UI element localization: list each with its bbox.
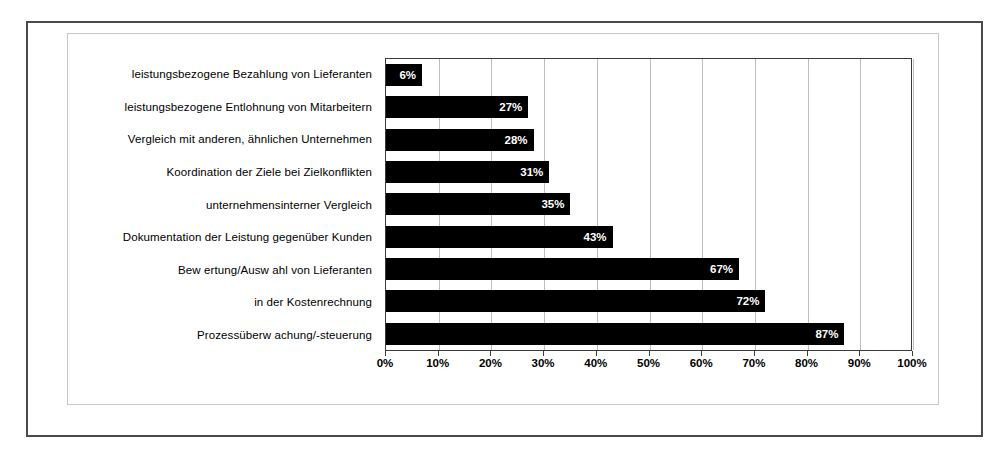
x-axis-tick bbox=[701, 351, 702, 356]
bar-value-label: 31% bbox=[520, 166, 543, 178]
plot-area: 6%27%28%31%35%43%67%72%87% bbox=[385, 58, 912, 351]
bar-value-label: 43% bbox=[584, 231, 607, 243]
x-axis-tick-label: 30% bbox=[532, 357, 555, 369]
category-label: Vergleich mit anderen, ähnlichen Unterne… bbox=[78, 123, 381, 156]
bar-value-label: 87% bbox=[815, 328, 838, 340]
category-axis-labels: leistungsbezogene Bezahlung von Lieferan… bbox=[78, 58, 381, 351]
x-axis-tick-label: 100% bbox=[897, 357, 926, 369]
bar: 43% bbox=[386, 226, 613, 248]
bar-row: 72% bbox=[386, 285, 911, 317]
bar: 87% bbox=[386, 323, 844, 345]
x-axis-tick bbox=[596, 351, 597, 356]
category-label: leistungsbezogene Entlohnung von Mitarbe… bbox=[78, 91, 381, 124]
x-axis-tick bbox=[438, 351, 439, 356]
x-axis-tick bbox=[490, 351, 491, 356]
x-axis-tick-label: 0% bbox=[377, 357, 394, 369]
bar: 31% bbox=[386, 161, 549, 183]
x-axis-tick bbox=[754, 351, 755, 356]
bar: 28% bbox=[386, 129, 534, 151]
x-axis-ticks bbox=[385, 351, 912, 356]
bar-row: 31% bbox=[386, 156, 911, 188]
bar-row: 27% bbox=[386, 91, 911, 123]
bar-value-label: 67% bbox=[710, 263, 733, 275]
gridline bbox=[913, 59, 914, 350]
bar-row: 35% bbox=[386, 188, 911, 220]
category-label: Bew ertung/Ausw ahl von Lieferanten bbox=[78, 253, 381, 286]
bar-value-label: 35% bbox=[541, 198, 564, 210]
x-axis-tick-label: 10% bbox=[426, 357, 449, 369]
x-axis-tick-label: 50% bbox=[637, 357, 660, 369]
page-root: leistungsbezogene Bezahlung von Lieferan… bbox=[0, 0, 1006, 457]
category-label: in der Kostenrechnung bbox=[78, 286, 381, 319]
category-label: Dokumentation der Leistung gegenüber Kun… bbox=[78, 221, 381, 254]
bar-series: 6%27%28%31%35%43%67%72%87% bbox=[386, 59, 911, 350]
bar-row: 43% bbox=[386, 221, 911, 253]
x-axis-tick bbox=[912, 351, 913, 356]
bar-row: 67% bbox=[386, 253, 911, 285]
bar: 67% bbox=[386, 258, 739, 280]
x-axis-tick-label: 90% bbox=[848, 357, 871, 369]
bar-row: 87% bbox=[386, 318, 911, 350]
x-axis-tick bbox=[859, 351, 860, 356]
bar-row: 28% bbox=[386, 124, 911, 156]
bar: 27% bbox=[386, 96, 528, 118]
category-label: unternehmensinterner Vergleich bbox=[78, 188, 381, 221]
x-axis-tick-label: 80% bbox=[795, 357, 818, 369]
x-axis-tick bbox=[543, 351, 544, 356]
category-label: Prozessüberw achung/-steuerung bbox=[78, 319, 381, 352]
bar: 35% bbox=[386, 193, 570, 215]
x-axis-tick-label: 60% bbox=[690, 357, 713, 369]
bar: 72% bbox=[386, 290, 765, 312]
bar: 6% bbox=[386, 64, 422, 86]
bar-chart: leistungsbezogene Bezahlung von Lieferan… bbox=[78, 46, 928, 394]
bar-value-label: 28% bbox=[505, 134, 528, 146]
category-label: Koordination der Ziele bei Zielkonflikte… bbox=[78, 156, 381, 189]
bar-row: 6% bbox=[386, 59, 911, 91]
bar-value-label: 6% bbox=[399, 69, 416, 81]
x-axis-tick bbox=[385, 351, 386, 356]
category-label: leistungsbezogene Bezahlung von Lieferan… bbox=[78, 58, 381, 91]
x-axis-tick bbox=[807, 351, 808, 356]
bar-value-label: 27% bbox=[499, 101, 522, 113]
bar-value-label: 72% bbox=[736, 295, 759, 307]
x-axis-tick-label: 20% bbox=[479, 357, 502, 369]
plot-inner: 6%27%28%31%35%43%67%72%87% bbox=[386, 59, 911, 350]
x-axis-tick-label: 40% bbox=[584, 357, 607, 369]
x-axis-tick bbox=[649, 351, 650, 356]
x-axis-tick-label: 70% bbox=[742, 357, 765, 369]
x-axis-labels: 0%10%20%30%40%50%60%70%80%90%100% bbox=[385, 357, 912, 375]
